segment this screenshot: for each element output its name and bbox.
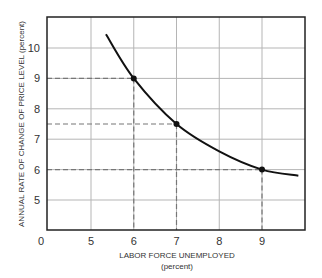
x-tick-label: 8 — [216, 235, 222, 247]
x-origin-label: 0 — [38, 235, 44, 247]
y-axis-ticks: 5678910 — [28, 42, 40, 206]
y-tick-label: 8 — [34, 103, 40, 115]
reference-dashed-lines — [47, 78, 262, 230]
phillips-curve-chart: 56789 5678910 0 LABOR FORCE UNEMPLOYED (… — [0, 0, 322, 278]
x-tick-label: 5 — [88, 235, 94, 247]
x-tick-label: 7 — [173, 235, 179, 247]
x-tick-label: 9 — [259, 235, 265, 247]
y-tick-label: 6 — [34, 164, 40, 176]
x-axis-ticks: 56789 — [88, 235, 265, 247]
y-tick-label: 10 — [28, 42, 40, 54]
curve-line — [106, 34, 298, 175]
x-tick-label: 6 — [131, 235, 137, 247]
data-point-marker — [259, 167, 265, 173]
y-tick-label: 7 — [34, 133, 40, 145]
data-point-marker — [131, 75, 137, 81]
data-points — [131, 75, 265, 172]
x-axis-label: LABOR FORCE UNEMPLOYED — [119, 251, 235, 260]
data-point-marker — [174, 121, 180, 127]
y-tick-label: 5 — [34, 194, 40, 206]
y-axis-label: ANNUAL RATE OF CHANGE OF PRICE LEVEL (pe… — [17, 21, 26, 227]
x-axis-unit: (percent) — [161, 262, 193, 271]
y-tick-label: 9 — [34, 72, 40, 84]
